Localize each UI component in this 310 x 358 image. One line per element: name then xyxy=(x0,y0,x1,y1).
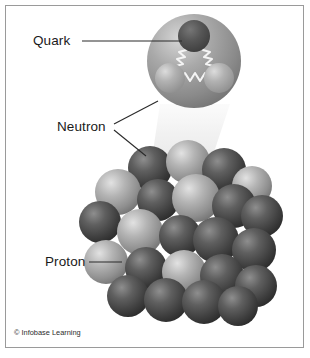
leader-line-neutron-upper xyxy=(114,101,158,124)
nucleus-cluster xyxy=(79,140,283,326)
quark-bottom-left xyxy=(155,63,185,93)
nucleon-proton xyxy=(172,174,220,222)
figure-root: Quark Neutron Proton © Infobase Learning xyxy=(0,0,310,358)
copyright-notice: © Infobase Learning xyxy=(14,328,81,337)
nucleon-neutron xyxy=(79,201,121,243)
nucleon-neutron xyxy=(218,286,258,326)
leader-line-neutron-lower xyxy=(114,130,146,156)
label-proton: Proton xyxy=(45,254,85,269)
nucleon-neutron xyxy=(144,278,188,322)
nucleon-neutron xyxy=(107,275,149,317)
quark-top xyxy=(178,20,210,52)
label-quark: Quark xyxy=(33,33,70,48)
quark-bottom-right xyxy=(204,63,234,93)
magnified-nucleon xyxy=(147,14,241,108)
label-neutron: Neutron xyxy=(57,119,106,134)
nucleus-diagram xyxy=(0,0,310,358)
